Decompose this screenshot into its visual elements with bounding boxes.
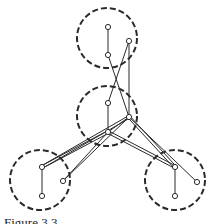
graph-node-m3 <box>105 129 110 134</box>
graph-node-m2 <box>126 114 131 119</box>
graph-canvas <box>0 0 213 224</box>
graph-node-m1 <box>105 100 110 105</box>
edge-m2-l1 <box>43 118 130 168</box>
cluster-circle-top <box>77 8 137 68</box>
graph-node-t2 <box>105 52 110 57</box>
clustered-graph-figure: Figure 3.3 <box>0 0 213 224</box>
graph-node-r2 <box>194 179 199 184</box>
graph-node-l2 <box>60 178 65 183</box>
figure-caption: Figure 3.3 <box>4 216 57 224</box>
edge-m3-l1 <box>43 133 109 168</box>
graph-node-t1 <box>105 24 110 29</box>
edge-m3-r1 <box>109 131 176 166</box>
node-layer <box>39 24 199 198</box>
graph-node-r1 <box>172 164 177 169</box>
graph-node-l1 <box>39 164 44 169</box>
edge-layer <box>41 27 197 196</box>
edge-m3-l1 <box>41 131 107 166</box>
graph-node-t3 <box>126 38 131 43</box>
edge-m2-r1 <box>128 118 174 168</box>
edge-m2-l1 <box>41 116 128 166</box>
graph-node-r3 <box>172 193 177 198</box>
graph-node-l3 <box>39 193 44 198</box>
edge-m3-l2 <box>63 132 108 181</box>
